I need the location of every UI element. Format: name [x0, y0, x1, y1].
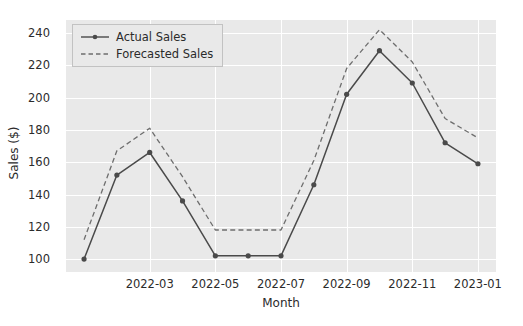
- legend-label-actual-sales: Actual Sales: [116, 30, 186, 44]
- legend-label-forecasted-sales: Forecasted Sales: [116, 47, 213, 61]
- chart-legend[interactable]: Actual Sales Forecasted Sales: [72, 24, 223, 67]
- x-tick-label: 2022-11: [388, 277, 436, 291]
- x-tick-label: 2022-07: [257, 277, 305, 291]
- x-tick-label: 2022-05: [191, 277, 239, 291]
- x-tick-label: 2023-01: [454, 277, 502, 291]
- x-tick-label: 2022-09: [323, 277, 371, 291]
- chart-figure: 100120140160180200220240 2022-032022-052…: [0, 0, 523, 326]
- x-tick-label: 2022-03: [126, 277, 174, 291]
- y-axis-label: Sales ($): [7, 93, 21, 213]
- x-axis-label: Month: [66, 296, 496, 310]
- legend-item-actual-sales[interactable]: Actual Sales: [80, 30, 213, 44]
- legend-swatch-dashed-line-icon: [80, 48, 110, 60]
- legend-item-forecasted-sales[interactable]: Forecasted Sales: [80, 47, 213, 61]
- legend-swatch-solid-line-icon: [80, 31, 110, 43]
